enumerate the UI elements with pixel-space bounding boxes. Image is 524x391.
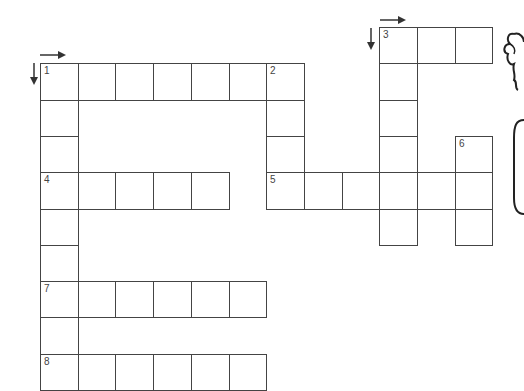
cartoon-character-icon: [500, 30, 524, 100]
clue-number: 7: [44, 284, 50, 294]
crossword-cell[interactable]: [40, 209, 79, 246]
clue-number: 6: [459, 139, 465, 149]
crossword-cell[interactable]: [455, 172, 493, 210]
crossword-cell[interactable]: [78, 281, 116, 318]
crossword-cell[interactable]: 6: [455, 136, 493, 173]
crossword-cell[interactable]: [417, 27, 456, 64]
crossword-cell[interactable]: [379, 63, 418, 101]
clue-number: 1: [44, 66, 50, 76]
clue-number: 5: [270, 175, 276, 185]
crossword-cell[interactable]: 3: [379, 27, 418, 64]
crossword-cell[interactable]: [379, 209, 418, 246]
crossword-cell[interactable]: [379, 100, 418, 137]
crossword-cell[interactable]: [40, 245, 79, 282]
crossword-cell[interactable]: [304, 172, 343, 210]
clue-number: 3: [383, 30, 389, 40]
crossword-cell[interactable]: [417, 172, 456, 210]
crossword-cell[interactable]: [229, 281, 267, 318]
crossword-cell[interactable]: [229, 354, 267, 391]
crossword-cell[interactable]: 5: [266, 172, 305, 210]
across-arrow-icon-1: [40, 50, 66, 60]
crossword-cell[interactable]: [153, 281, 192, 318]
crossword-cell[interactable]: 1: [40, 63, 79, 101]
down-arrow-icon-3: [366, 28, 376, 50]
crossword-cell[interactable]: 4: [40, 172, 79, 210]
cartoon-board-icon: [512, 118, 524, 216]
crossword-cell[interactable]: 2: [266, 63, 305, 101]
crossword-cell[interactable]: [78, 172, 116, 210]
clue-number: 8: [44, 357, 50, 367]
across-arrow-icon-3: [380, 15, 406, 25]
crossword-cell[interactable]: [115, 172, 154, 210]
crossword-cell[interactable]: 8: [40, 354, 79, 391]
crossword-cell[interactable]: 7: [40, 281, 79, 318]
crossword-cell[interactable]: [78, 354, 116, 391]
crossword-cell[interactable]: [40, 100, 79, 137]
crossword-cell[interactable]: [191, 63, 230, 101]
crossword-cell[interactable]: [115, 354, 154, 391]
crossword-cell[interactable]: [191, 281, 230, 318]
crossword-cell[interactable]: [191, 354, 230, 391]
down-arrow-icon-1: [29, 63, 39, 85]
crossword-cell[interactable]: [78, 63, 116, 101]
crossword-cell[interactable]: [266, 100, 305, 137]
clue-number: 2: [270, 66, 276, 76]
crossword-cell[interactable]: [153, 354, 192, 391]
crossword-cell[interactable]: [266, 136, 305, 173]
crossword-cell[interactable]: [40, 317, 79, 355]
crossword-cell[interactable]: [115, 281, 154, 318]
crossword-cell[interactable]: [455, 27, 493, 64]
crossword-cell[interactable]: [379, 136, 418, 173]
crossword-cell[interactable]: [153, 172, 192, 210]
clue-number: 4: [44, 175, 50, 185]
crossword-cell[interactable]: [229, 63, 267, 101]
crossword-cell[interactable]: [115, 63, 154, 101]
crossword-cell[interactable]: [153, 63, 192, 101]
crossword-cell[interactable]: [191, 172, 230, 210]
crossword-cell[interactable]: [455, 209, 493, 246]
crossword-cell[interactable]: [40, 136, 79, 173]
crossword-cell[interactable]: [342, 172, 380, 210]
crossword-cell[interactable]: [379, 172, 418, 210]
